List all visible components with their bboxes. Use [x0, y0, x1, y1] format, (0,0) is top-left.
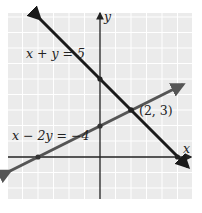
intersection-label: (2, 3) [139, 103, 173, 118]
x-intercept-point-5 [175, 154, 180, 159]
x-axis-label: x [183, 141, 190, 156]
line1-label: x + y = 5 [26, 46, 85, 61]
y-intercept-point-2 [97, 123, 102, 128]
intersection-point [128, 107, 134, 113]
y-intercept-point-5 [97, 76, 102, 81]
line2-label: x − 2y = −4 [12, 128, 89, 143]
y-axis-label: y [103, 9, 112, 24]
x-intercept-point-neg4 [35, 154, 40, 159]
graph-canvas: y x x + y = 5 x − 2y = −4 (2, 3) [0, 0, 202, 213]
